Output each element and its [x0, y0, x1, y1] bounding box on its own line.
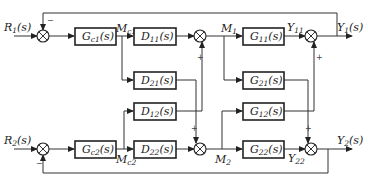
signal-y22-label: Y22: [288, 152, 305, 166]
block-gc2: Gc2(s): [75, 141, 116, 158]
block-g21: G21(s): [243, 72, 284, 89]
block-d12: D12(s): [134, 103, 176, 120]
signal-m1-label: M1: [220, 22, 237, 36]
sum-junction-m2: [194, 143, 206, 155]
output-y2-label: Y2(s): [337, 134, 363, 148]
plus-sign-m2: +: [191, 124, 198, 133]
sum-junction-m1: [194, 30, 206, 42]
row1-connections: [14, 13, 352, 80]
input-r2-label: R2(s): [3, 134, 31, 148]
block-d21: D21(s): [134, 72, 176, 89]
sum-junction-y2: [305, 143, 317, 155]
plus-sign-m1: +: [197, 53, 204, 62]
minus-sign-r1: −: [47, 16, 54, 25]
sum-junction-y1: [305, 30, 317, 42]
block-g22: G22(s): [243, 141, 284, 158]
sum-junction-r2: [37, 143, 49, 155]
block-g12: G12(s): [243, 103, 284, 120]
sum-junction-r1: [37, 30, 49, 42]
block-gc1: Gc1(s): [75, 28, 116, 45]
block-diagram: Gc1(s) Gc2(s) D11(s) D21(s) D12(s) D22(s…: [0, 0, 368, 186]
block-d11: D11(s): [134, 28, 176, 45]
plus-sign-y2: +: [305, 124, 312, 133]
plus-sign-y1: +: [316, 53, 323, 62]
signal-mc1-label: Mc1: [115, 22, 136, 36]
signal-m2-label: M2: [214, 153, 231, 167]
output-y1-label: Y1(s): [337, 21, 363, 35]
input-r1-label: R1(s): [3, 21, 31, 35]
block-g11: G11(s): [243, 28, 284, 45]
minus-sign-r2: −: [36, 159, 43, 168]
block-d22: D22(s): [134, 141, 176, 158]
signal-y11-label: Y11: [287, 21, 304, 35]
